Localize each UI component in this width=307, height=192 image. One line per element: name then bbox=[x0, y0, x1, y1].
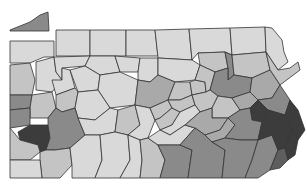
county-fayette bbox=[40, 148, 72, 178]
county-mercer bbox=[10, 63, 35, 95]
county-susquehanna bbox=[230, 27, 266, 55]
county-erie bbox=[10, 12, 49, 31]
county-potter bbox=[126, 30, 158, 56]
county-tioga bbox=[155, 29, 192, 60]
county-mckean bbox=[90, 30, 126, 56]
county-warren bbox=[56, 30, 90, 56]
pennsylvania-county-map bbox=[0, 0, 307, 192]
county-layer bbox=[10, 12, 305, 178]
county-greene bbox=[10, 160, 42, 178]
county-beaver bbox=[10, 108, 30, 128]
